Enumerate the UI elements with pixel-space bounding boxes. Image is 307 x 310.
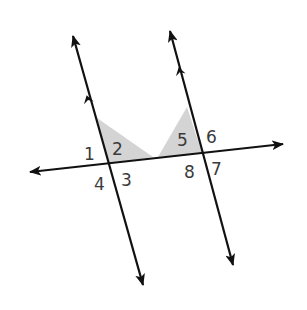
- parallel-lines-transversal-diagram: 12345678: [0, 0, 307, 310]
- lines: [30, 31, 283, 285]
- parallel-markers: [84, 67, 186, 104]
- angle-label-4: 4: [94, 174, 105, 194]
- angle-label-7: 7: [211, 159, 222, 179]
- shaded-angle-2: [97, 118, 153, 164]
- angle-label-5: 5: [177, 130, 188, 150]
- angle-label-8: 8: [184, 162, 195, 182]
- angle-label-3: 3: [121, 170, 132, 190]
- transversal: [30, 144, 283, 172]
- angle-label-2: 2: [112, 139, 123, 159]
- angle-label-1: 1: [84, 144, 95, 164]
- angle-label-6: 6: [206, 127, 217, 147]
